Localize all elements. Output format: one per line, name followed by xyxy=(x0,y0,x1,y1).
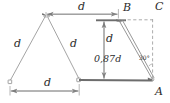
label-point-C: C xyxy=(155,1,163,12)
member-BA xyxy=(116,19,154,81)
member-bottom-bar xyxy=(79,80,153,81)
figure-canvas xyxy=(0,0,170,103)
label-dimension-base-d: d xyxy=(44,77,51,88)
label-point-B: B xyxy=(123,2,131,13)
label-dimension-top-d: d xyxy=(78,1,85,12)
joint-apex xyxy=(42,13,51,17)
label-dimension-left-side-d: d xyxy=(14,38,21,49)
joint-base-left xyxy=(8,80,12,84)
label-point-A: A xyxy=(155,86,163,97)
label-angle-at-A: 30° xyxy=(139,55,150,61)
label-dimension-right-side-d: d xyxy=(70,38,77,49)
geometry-figure: d d d d d 0,87d 30° B C A xyxy=(0,0,170,103)
label-dimension-link-BA-d: d xyxy=(106,33,113,44)
label-dimension-vertical: 0,87d xyxy=(94,54,121,64)
angle-arc-at-A xyxy=(149,64,153,66)
